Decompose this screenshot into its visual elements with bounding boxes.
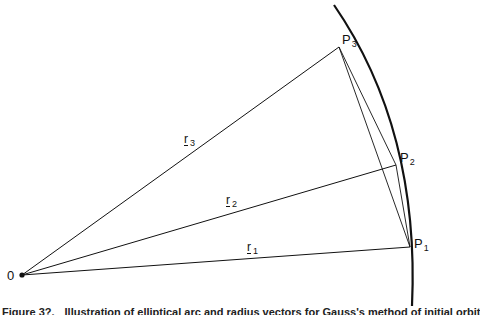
vector-subscript: 2 — [232, 199, 237, 209]
point-letter: P — [400, 150, 409, 165]
vector-letter: r — [184, 132, 188, 146]
vector-label-r2: r2 — [226, 194, 237, 210]
origin-label: 0 — [7, 269, 14, 282]
point-subscript: 1 — [424, 243, 429, 253]
vector-label-r1: r1 — [247, 241, 258, 257]
vector-subscript: 3 — [190, 138, 195, 148]
point-subscript: 3 — [352, 39, 357, 49]
point-label-p2: P2 — [400, 151, 415, 169]
figure-caption: Figure 3?.Illustration of elliptical arc… — [2, 306, 480, 315]
origin-dot — [19, 272, 24, 277]
point-letter: P — [342, 32, 351, 47]
vector-label-r3: r3 — [184, 133, 195, 149]
radius-vector-r1 — [22, 247, 410, 275]
point-label-p1: P1 — [414, 237, 429, 255]
point-letter: P — [414, 236, 423, 251]
point-label-p3: P3 — [342, 33, 357, 51]
point-subscript: 2 — [410, 157, 415, 167]
caption-number: Figure 3?. — [2, 306, 55, 315]
vector-letter: r — [226, 193, 230, 207]
vector-letter: r — [247, 240, 251, 254]
vector-subscript: 1 — [253, 246, 258, 256]
radius-vector-r2 — [22, 165, 396, 275]
radius-vector-r3 — [22, 47, 339, 275]
caption-text: Illustration of elliptical arc and radiu… — [65, 306, 480, 315]
